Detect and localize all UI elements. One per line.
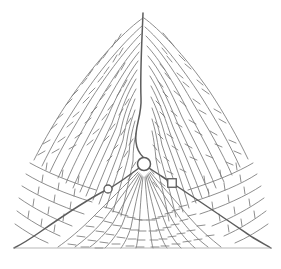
interior-equilibrium-marker — [138, 158, 151, 171]
phase-portrait-canvas — [0, 0, 281, 269]
node-right-marker — [168, 179, 177, 188]
saddle-left-marker — [104, 185, 112, 193]
phase-portrait-figure — [0, 0, 281, 269]
